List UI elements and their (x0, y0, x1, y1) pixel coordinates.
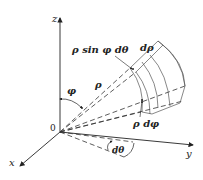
z-axis-label: z (52, 14, 57, 24)
x-axis (20, 132, 60, 166)
d-rho-label: dρ (140, 43, 154, 53)
origin-label: 0 (50, 124, 56, 133)
rho-dphi-leader (140, 101, 142, 117)
x-axis-label: x (9, 158, 15, 168)
phi-label: φ (67, 86, 76, 96)
rho-dphi-label: ρ dφ (133, 119, 159, 129)
rho-sin-phi-dtheta-leader (115, 56, 132, 69)
rho-label: ρ (95, 80, 102, 90)
phi-arc (60, 99, 82, 108)
diagram-drawing (0, 0, 203, 180)
d-theta-label: dθ (112, 146, 124, 155)
y-axis-label: y (186, 149, 192, 159)
dashed-rays (60, 68, 185, 157)
dtheta-arc (124, 143, 134, 157)
spherical-volume-element-diagram: z y x 0 ρ sin φ dθ dρ φ ρ ρ dφ dθ (0, 0, 203, 180)
rho-sin-phi-dtheta-label: ρ sin φ dθ (72, 45, 129, 55)
y-axis (60, 132, 193, 145)
